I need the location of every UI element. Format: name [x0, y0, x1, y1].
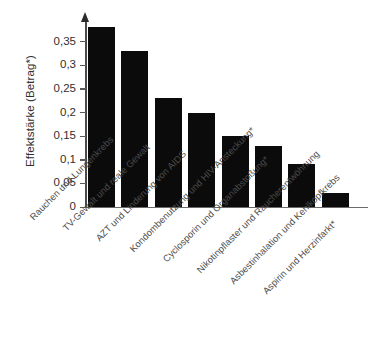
y-axis-tick-label: 0,25 — [32, 83, 76, 94]
y-axis-tick-label: 0,15 — [32, 130, 76, 141]
y-axis-tick — [80, 183, 86, 184]
bar-chart: Effektstärke (Betrag*) 00,050,10,150,20,… — [0, 0, 377, 352]
y-axis-tick-label: 0,2 — [32, 107, 76, 118]
x-axis-category-labels: Rauchen und LungenkrebsTV-Gewalt und rea… — [0, 209, 377, 352]
y-axis-tick — [80, 136, 86, 137]
y-axis-tick-label: 0,3 — [32, 59, 76, 70]
y-axis-tick — [80, 88, 86, 89]
y-axis-tick — [80, 41, 86, 42]
y-axis-tick-label: 0,1 — [32, 154, 76, 165]
y-axis-line — [85, 20, 87, 208]
y-axis-tick-label: 0,35 — [32, 36, 76, 47]
y-axis-tick — [80, 65, 86, 66]
x-axis-category-label: Aspirin und Herzinfarkt* — [261, 219, 339, 297]
y-axis-tick — [80, 112, 86, 113]
bars-container — [88, 18, 360, 207]
